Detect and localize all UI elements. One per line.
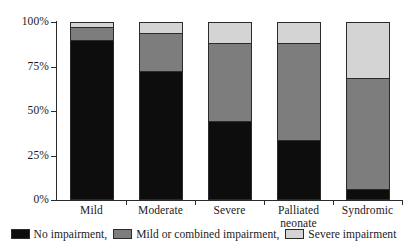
legend-label: Mild or combined impairment,: [136, 228, 279, 240]
legend-label: Severe impairment: [308, 228, 396, 240]
y-axis-tick-label: 50%: [3, 104, 49, 116]
x-axis-label-line: Palliated: [278, 204, 319, 216]
x-axis-label-line: Moderate: [138, 204, 183, 216]
bar-segment: [278, 23, 320, 44]
bar-segment: [140, 34, 182, 73]
legend-swatch: [285, 229, 304, 239]
x-axis-label: Syndromic: [333, 204, 402, 217]
legend-swatch: [11, 229, 30, 239]
x-axis-label: Mild: [57, 204, 126, 217]
bar-stack: [70, 22, 114, 200]
legend-label: No impairment,: [34, 228, 108, 240]
bar-segment: [209, 23, 251, 44]
x-axis-label: Palliatedneonate: [264, 204, 333, 229]
bar-segment: [278, 141, 320, 199]
bar-segment: [278, 44, 320, 141]
bar-stack: [139, 22, 183, 200]
y-axis-tick-label: 75%: [3, 60, 49, 72]
y-axis-tick: [51, 200, 57, 201]
bar-stack: [277, 22, 321, 200]
bar-segment: [347, 190, 389, 199]
x-axis-label-line: Syndromic: [342, 204, 393, 216]
x-axis-label: Moderate: [126, 204, 195, 217]
bar-segment: [347, 79, 389, 190]
y-axis-tick-label: 25%: [3, 149, 49, 161]
bar-segment: [209, 122, 251, 199]
bar-segment: [140, 72, 182, 199]
bar-palliated-neonate[interactable]: [277, 22, 321, 200]
y-axis-tick-label: 100%: [3, 15, 49, 27]
x-axis-label-line: Severe: [214, 204, 246, 216]
y-axis-tick-label: 0%: [3, 193, 49, 205]
bar-segment: [71, 28, 113, 40]
bar-moderate[interactable]: [139, 22, 183, 200]
chart-legend: No impairment,Mild or combined impairmen…: [0, 228, 407, 240]
plot-area: [57, 22, 402, 200]
legend-item[interactable]: Mild or combined impairment,: [113, 228, 279, 240]
bar-segment: [71, 41, 113, 199]
bar-segment: [347, 23, 389, 79]
x-axis-label: Severe: [195, 204, 264, 217]
legend-item[interactable]: Severe impairment: [285, 228, 396, 240]
x-axis-label-line: Mild: [80, 204, 103, 216]
legend-item[interactable]: No impairment,: [11, 228, 108, 240]
legend-swatch: [113, 229, 132, 239]
x-axis-tick: [402, 200, 403, 205]
bar-syndromic[interactable]: [346, 22, 390, 200]
x-axis-line: [56, 200, 402, 201]
bar-segment: [209, 44, 251, 121]
bar-segment: [140, 23, 182, 34]
bar-stack: [208, 22, 252, 200]
stacked-bar-chart: 100%75%50%25%0% MildModerateSeverePallia…: [0, 0, 407, 246]
bar-severe[interactable]: [208, 22, 252, 200]
bar-mild[interactable]: [70, 22, 114, 200]
bar-stack: [346, 22, 390, 200]
